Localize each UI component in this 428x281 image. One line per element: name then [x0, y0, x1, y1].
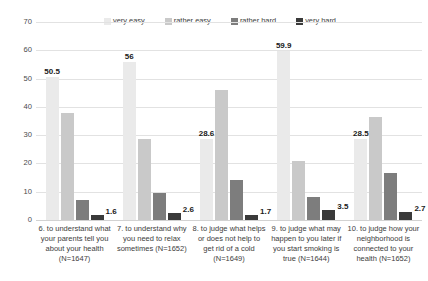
bar-group: 562.6 — [113, 22, 190, 220]
x-axis-label-line: or does not help to — [192, 234, 265, 244]
bar-very-easy[interactable]: 56 — [123, 62, 136, 220]
x-axis-label-line: 9. to judge what may — [270, 224, 343, 234]
bar-rather-easy[interactable] — [369, 117, 382, 220]
bar-very-hard[interactable]: 2.7 — [399, 212, 412, 220]
y-axis-tick-label: 10 — [2, 188, 32, 196]
bar-rather-hard[interactable] — [384, 173, 397, 220]
x-axis-label-line: about your health — [38, 244, 111, 254]
x-axis-label-line: health (N=1652) — [347, 254, 420, 264]
bar-slot-rather-hard — [76, 22, 89, 220]
x-axis-label-line: (N=1649) — [192, 254, 265, 264]
bar-group: 50.51.6 — [36, 22, 113, 220]
x-axis-label-line: get rid of a cold — [192, 244, 265, 254]
bar-slot-rather-hard — [384, 22, 397, 220]
bar-very-hard[interactable]: 3.5 — [322, 210, 335, 220]
x-axis-label-line: sometimes (N=1652) — [115, 244, 188, 254]
y-axis-tick-label: 20 — [2, 160, 32, 168]
bar-slot-very-easy: 50.5 — [46, 22, 59, 220]
x-axis-label-line: 8. to judge what helps — [192, 224, 265, 234]
gridline — [36, 220, 422, 221]
x-axis-label-line: 7. to understand why — [115, 224, 188, 234]
y-axis-tick-label: 70 — [2, 18, 32, 26]
bar-rather-hard[interactable] — [76, 200, 89, 220]
bar-group: 28.61.7 — [190, 22, 267, 220]
bar-groups: 50.51.6562.628.61.759.93.528.52.7 — [36, 22, 422, 220]
x-axis-label-line: (N=1647) — [38, 254, 111, 264]
bar-value-label: 50.5 — [44, 68, 60, 76]
bar-group: 59.93.5 — [268, 22, 345, 220]
bar-very-easy[interactable]: 50.5 — [46, 77, 59, 220]
bar-slot-very-easy: 59.9 — [277, 22, 290, 220]
bar-very-hard[interactable]: 2.6 — [168, 213, 181, 220]
bar-slot-rather-hard — [153, 22, 166, 220]
bar-very-easy[interactable]: 28.6 — [200, 139, 213, 220]
bar-slot-very-hard: 2.7 — [399, 22, 412, 220]
x-axis-label-line: happen to you later if — [270, 234, 343, 244]
bar-rather-easy[interactable] — [292, 161, 305, 220]
bar-slot-very-easy: 28.6 — [200, 22, 213, 220]
bar-rather-hard[interactable] — [230, 180, 243, 220]
bar-chart: very easy rather easy rather hard very h… — [0, 0, 428, 281]
x-axis-category-label: 10. to judge how yourneighborhood isconn… — [345, 224, 422, 278]
bar-value-label: 28.5 — [353, 130, 369, 138]
x-axis-category-label: 8. to judge what helpsor does not help t… — [190, 224, 267, 278]
bar-value-label: 2.7 — [414, 205, 425, 213]
bar-very-hard[interactable]: 1.6 — [91, 215, 104, 220]
plot-area: 010203040506070 50.51.6562.628.61.759.93… — [36, 22, 422, 220]
bar-slot-very-hard: 1.6 — [91, 22, 104, 220]
bar-slot-rather-easy — [61, 22, 74, 220]
bar-rather-easy[interactable] — [215, 90, 228, 220]
bar-rather-hard[interactable] — [307, 197, 320, 220]
bar-very-easy[interactable]: 28.5 — [354, 139, 367, 220]
y-axis-tick-label: 0 — [2, 216, 32, 224]
x-axis-label-line: you start smoking is — [270, 244, 343, 254]
x-axis-category-label: 6. to understand whatyour parents tell y… — [36, 224, 113, 278]
bar-slot-rather-hard — [230, 22, 243, 220]
x-axis-label-line: neighborhood is — [347, 234, 420, 244]
x-axis-label-line: connected to your — [347, 244, 420, 254]
bar-value-label: 28.6 — [199, 130, 215, 138]
y-axis-tick-label: 50 — [2, 75, 32, 83]
x-axis-label-line: 10. to judge how your — [347, 224, 420, 234]
x-axis-label-line: true (N=1644) — [270, 254, 343, 264]
bar-slot-very-easy: 56 — [123, 22, 136, 220]
bar-slot-rather-hard — [307, 22, 320, 220]
x-axis-label-line: you need to relax — [115, 234, 188, 244]
bar-slot-rather-easy — [138, 22, 151, 220]
bar-slot-rather-easy — [215, 22, 228, 220]
bar-rather-hard[interactable] — [153, 193, 166, 220]
y-axis-tick-label: 40 — [2, 103, 32, 111]
x-axis-category-label: 7. to understand whyyou need to relaxsom… — [113, 224, 190, 278]
bar-slot-very-easy: 28.5 — [354, 22, 367, 220]
bar-value-label: 56 — [125, 53, 134, 61]
y-axis-tick-label: 30 — [2, 131, 32, 139]
bar-rather-easy[interactable] — [138, 139, 151, 220]
x-axis-labels: 6. to understand whatyour parents tell y… — [36, 224, 422, 278]
x-axis-category-label: 9. to judge what mayhappen to you later … — [268, 224, 345, 278]
x-axis-label-line: 6. to understand what — [38, 224, 111, 234]
bar-very-hard[interactable]: 1.7 — [245, 215, 258, 220]
y-axis-tick-label: 60 — [2, 46, 32, 54]
bar-slot-very-hard: 3.5 — [322, 22, 335, 220]
bar-slot-very-hard: 1.7 — [245, 22, 258, 220]
bar-value-label: 59.9 — [276, 42, 292, 50]
bar-slot-rather-easy — [292, 22, 305, 220]
bar-rather-easy[interactable] — [61, 113, 74, 220]
bar-very-easy[interactable]: 59.9 — [277, 51, 290, 220]
bar-slot-very-hard: 2.6 — [168, 22, 181, 220]
bar-slot-rather-easy — [369, 22, 382, 220]
bar-group: 28.52.7 — [345, 22, 422, 220]
x-axis-label-line: your parents tell you — [38, 234, 111, 244]
